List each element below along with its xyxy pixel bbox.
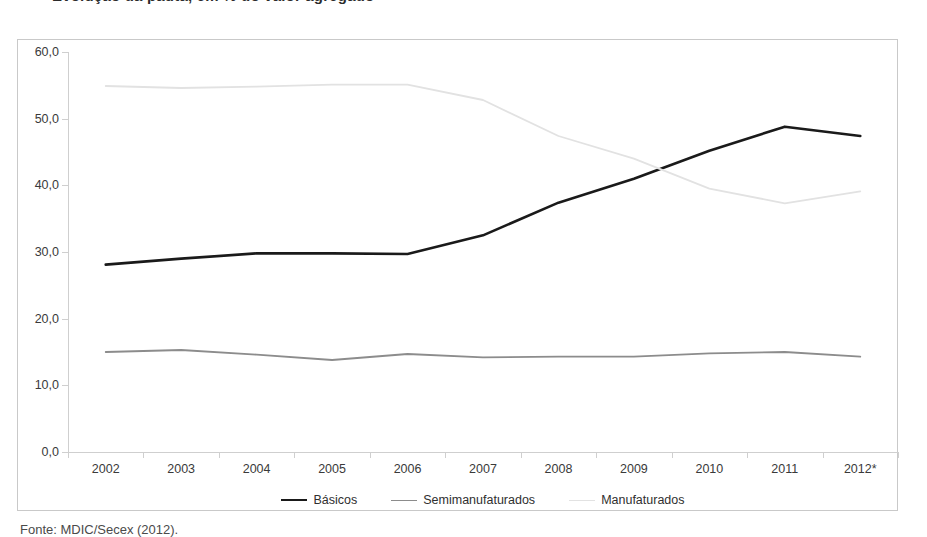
legend-swatch-icon [391,500,417,501]
x-axis-label: 2006 [394,462,422,476]
y-axis-label: 60,0 [35,45,59,59]
legend-item[interactable]: Manufaturados [569,493,684,507]
legend-label: Manufaturados [601,493,684,507]
y-axis-label: 0,0 [42,445,59,459]
legend-label: Semimanufaturados [423,493,535,507]
x-axis-label: 2004 [243,462,271,476]
figure-title-strip: Evolução da pauta, em % do valor agregad… [0,0,927,14]
page-title: Evolução da pauta, em % do valor agregad… [52,0,374,4]
figure-source-strip: Fonte: MDIC/Secex (2012). [0,518,927,537]
x-axis-label: 2011 [771,462,798,476]
chart-legend: BásicosSemimanufaturadosManufaturados [68,493,898,507]
legend-item[interactable]: Semimanufaturados [391,493,535,507]
x-axis-label: 2007 [469,462,497,476]
y-axis-label: 20,0 [35,312,59,326]
plot-area: 0,010,020,030,040,050,060,0 200220032004… [68,52,898,463]
x-axis-label: 2005 [318,462,346,476]
legend-item[interactable]: Básicos [281,493,357,507]
chart-frame: 0,010,020,030,040,050,060,0 200220032004… [17,39,898,511]
series-plot [68,52,898,463]
y-axis-label: 10,0 [35,378,59,392]
series-line [106,85,861,204]
y-axis-label: 40,0 [35,178,59,192]
y-axis-label: 30,0 [35,245,59,259]
legend-label: Básicos [313,493,357,507]
source-note: Fonte: MDIC/Secex (2012). [20,522,178,537]
x-axis-label: 2008 [545,462,573,476]
x-axis-label: 2009 [620,462,648,476]
x-axis-label: 2003 [167,462,195,476]
series-line [106,350,861,360]
x-axis-tick [898,452,899,458]
legend-swatch-icon [569,500,595,501]
legend-swatch-icon [281,499,307,501]
x-axis-label: 2002 [92,462,120,476]
y-axis-label: 50,0 [35,112,59,126]
x-axis-label: 2010 [695,462,723,476]
x-axis-label: 2012* [844,462,877,476]
